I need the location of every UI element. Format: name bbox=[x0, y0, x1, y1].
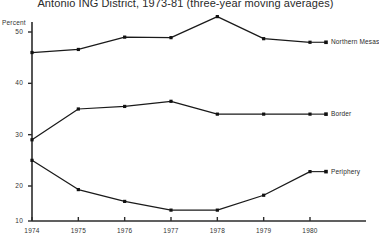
data-point bbox=[262, 37, 265, 40]
series-label: Border bbox=[331, 110, 351, 117]
data-point bbox=[262, 113, 265, 116]
data-point bbox=[216, 113, 219, 116]
x-tick-label: 1978 bbox=[200, 227, 234, 234]
y-tick-label: 40 bbox=[7, 79, 23, 86]
data-point bbox=[77, 107, 80, 110]
series-label: Northern Mesas bbox=[331, 38, 379, 45]
data-point bbox=[216, 209, 219, 212]
data-point bbox=[169, 100, 172, 103]
data-point bbox=[77, 48, 80, 51]
data-point bbox=[262, 194, 265, 197]
data-point bbox=[123, 36, 126, 39]
y-tick-label: 20 bbox=[7, 182, 23, 189]
data-point bbox=[169, 209, 172, 212]
series-line bbox=[32, 101, 310, 140]
data-point bbox=[123, 200, 126, 203]
series-label-marker bbox=[324, 40, 328, 44]
x-tick-label: 1975 bbox=[61, 227, 95, 234]
data-point bbox=[30, 159, 33, 162]
data-point bbox=[216, 15, 219, 18]
y-tick-label: 30 bbox=[7, 131, 23, 138]
y-tick-label: 50 bbox=[7, 28, 23, 35]
data-point bbox=[30, 51, 33, 54]
x-tick-label: 1976 bbox=[108, 227, 142, 234]
series-line bbox=[32, 160, 310, 210]
x-tick-label: 1974 bbox=[15, 227, 49, 234]
x-tick-label: 1979 bbox=[247, 227, 281, 234]
series-line bbox=[32, 17, 310, 53]
data-point bbox=[123, 105, 126, 108]
series-label: Periphery bbox=[331, 168, 360, 175]
y-tick-label: 10 bbox=[7, 217, 23, 224]
data-point bbox=[77, 188, 80, 191]
series-label-marker bbox=[324, 170, 328, 174]
series-label-marker bbox=[324, 112, 328, 116]
x-tick-label: 1980 bbox=[293, 227, 327, 234]
x-tick-label: 1977 bbox=[154, 227, 188, 234]
data-point bbox=[169, 36, 172, 39]
series-group bbox=[30, 15, 327, 212]
data-point bbox=[30, 138, 33, 141]
